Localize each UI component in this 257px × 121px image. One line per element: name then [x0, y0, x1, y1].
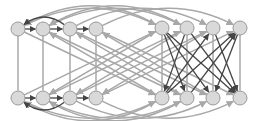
- network-diagram: [0, 0, 257, 121]
- node-t4: [155, 21, 169, 35]
- node-t3: [89, 22, 103, 36]
- node-t0: [11, 22, 25, 36]
- node-b0: [11, 91, 25, 105]
- node-b6: [206, 91, 220, 105]
- node-b3: [89, 91, 103, 105]
- node-t1: [36, 22, 50, 36]
- node-b1: [36, 91, 50, 105]
- node-t6: [206, 21, 220, 35]
- gray-edge-layer: [18, 6, 240, 121]
- node-t7: [233, 21, 247, 35]
- node-b5: [180, 91, 194, 105]
- node-t5: [180, 21, 194, 35]
- node-b4: [155, 91, 169, 105]
- node-t2: [63, 22, 77, 36]
- node-b7: [233, 91, 247, 105]
- node-b2: [63, 91, 77, 105]
